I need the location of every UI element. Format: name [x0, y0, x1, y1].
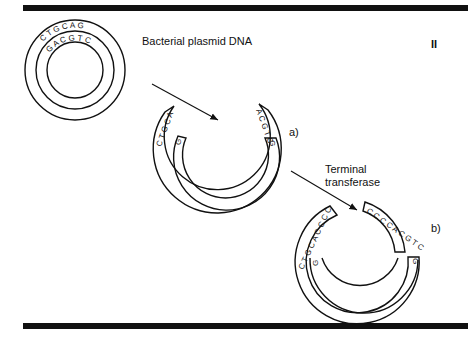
tailed-right-inner-sequence: G [411, 258, 420, 264]
enzyme-label-line2: transferase [325, 176, 380, 188]
arrow-step-a [152, 84, 218, 120]
plasmid-title: Bacterial plasmid DNA [142, 35, 252, 47]
tailed-left-inner-sequence: G [311, 260, 320, 266]
cut-left-inner-sequence: G [174, 139, 183, 145]
panel-marker: II [431, 38, 437, 50]
step-b-label: b) [431, 222, 441, 234]
plasmid-diagram: C T G C A G G A C G T C C T G C A G A C … [0, 0, 470, 337]
enzyme-label-line1: Terminal [325, 163, 367, 175]
tailed-right-outer-sequence: C C C C A C G T C [365, 206, 426, 252]
step-a-label: a) [289, 126, 299, 138]
cut-right-inner-sequence: G [268, 140, 277, 146]
